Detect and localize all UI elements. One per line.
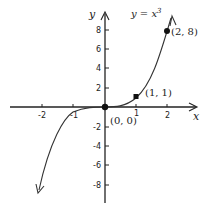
- x-tick-label: -1: [70, 111, 78, 120]
- y-tick-label: 4: [96, 64, 101, 73]
- y-tick-label: -8: [93, 181, 101, 190]
- y-tick-label: -6: [93, 161, 101, 170]
- point-label-1-1: (1, 1): [145, 87, 172, 98]
- curve-arrow-up-icon: [170, 16, 176, 26]
- x-tick-label: 2: [165, 111, 170, 120]
- x-axis-label: x: [193, 110, 200, 123]
- y-tick-label: 8: [96, 26, 101, 35]
- x-tick-label: -2: [38, 111, 46, 120]
- y-tick-label: -4: [93, 142, 101, 151]
- point-origin: [102, 104, 108, 110]
- equation-label: y = x3: [130, 7, 162, 19]
- y-axis-label: y: [88, 8, 96, 21]
- y-tick-label: -2: [93, 123, 101, 132]
- cubic-function-graph: -2 -1 1 2 x 8 6 4 2 -2 -4 -6 -8 y y = x3…: [0, 0, 205, 215]
- point-label-origin: (0, 0): [110, 115, 137, 126]
- point-label-2-8: (2, 8): [171, 26, 198, 37]
- point-1-1: [134, 94, 139, 99]
- y-tick-label: 2: [96, 84, 101, 93]
- point-2-8: [164, 28, 170, 34]
- y-tick-label: 6: [96, 45, 101, 54]
